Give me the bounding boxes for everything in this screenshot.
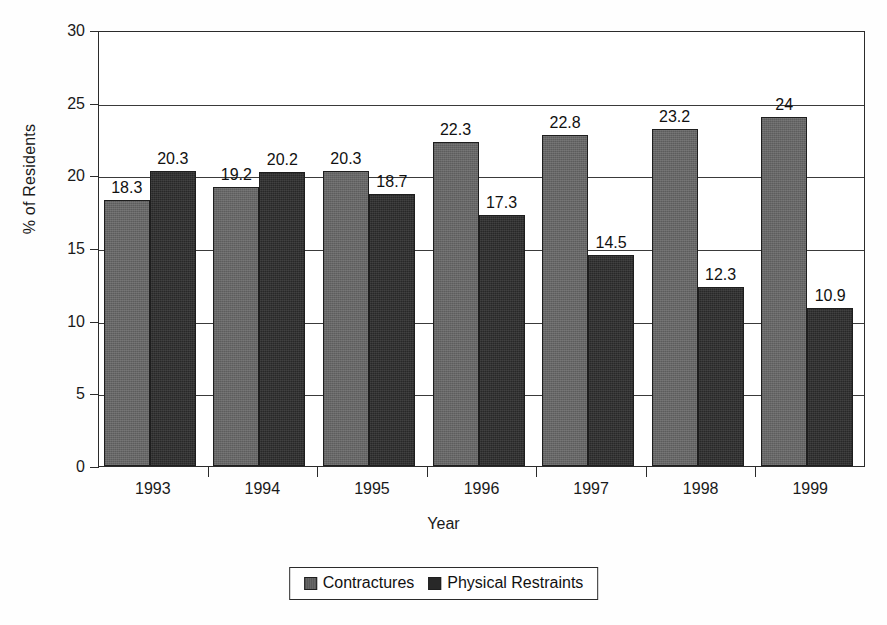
bar: [369, 194, 415, 466]
y-tick-label: 20: [40, 168, 85, 184]
y-tick-label: 5: [40, 386, 85, 402]
legend-entry-physical-restraints[interactable]: Physical Restraints: [428, 574, 583, 592]
bar-value-label: 14.5: [579, 235, 643, 251]
bar: [588, 255, 634, 466]
bar-value-label: 20.2: [250, 152, 314, 168]
bar: [652, 129, 698, 466]
plot-area: 18.320.319.220.220.318.722.317.322.814.5…: [98, 31, 865, 467]
x-tick-label: 1997: [536, 481, 646, 497]
x-tick-label: 1993: [98, 481, 208, 497]
bar: [259, 172, 305, 466]
y-axis-title: % of Residents: [21, 89, 39, 269]
bar: [213, 187, 259, 466]
x-tick-mark: [755, 467, 756, 477]
y-tick-mark: [90, 467, 99, 468]
y-tick-label: 0: [40, 459, 85, 475]
bar: [323, 171, 369, 466]
bar-value-label: 12.3: [689, 267, 753, 283]
gridline: [99, 105, 864, 106]
x-tick-mark: [536, 467, 537, 477]
x-axis-title: Year: [0, 515, 887, 533]
y-tick-label: 10: [40, 314, 85, 330]
bar-value-label: 10.9: [798, 288, 862, 304]
x-tick-label: 1999: [755, 481, 865, 497]
chart-figure: % of Residents 051015202530 18.320.319.2…: [0, 0, 887, 625]
bar: [433, 142, 479, 466]
x-tick-label: 1996: [427, 481, 537, 497]
legend-entry-contractures[interactable]: Contractures: [304, 574, 415, 592]
bar: [150, 171, 196, 466]
bar-value-label: 17.3: [470, 195, 534, 211]
bar-value-label: 22.3: [424, 122, 488, 138]
bar-value-label: 20.3: [141, 151, 205, 167]
x-tick-label: 1998: [646, 481, 756, 497]
bar-value-label: 20.3: [314, 151, 378, 167]
x-tick-mark: [427, 467, 428, 477]
bar: [807, 308, 853, 466]
bar: [479, 215, 525, 466]
x-tick-label: 1995: [317, 481, 427, 497]
x-tick-mark: [208, 467, 209, 477]
legend-label: Contractures: [323, 574, 415, 592]
x-tick-mark: [317, 467, 318, 477]
bar-value-label: 23.2: [643, 109, 707, 125]
y-tick-label: 30: [40, 23, 85, 39]
bar: [542, 135, 588, 466]
gray-swatch-icon: [304, 577, 317, 590]
x-tick-label: 1994: [208, 481, 318, 497]
chart-legend: Contractures Physical Restraints: [289, 567, 599, 600]
bar: [698, 287, 744, 466]
x-tick-mark: [646, 467, 647, 477]
black-swatch-icon: [428, 577, 441, 590]
bar-value-label: 22.8: [533, 115, 597, 131]
legend-label: Physical Restraints: [447, 574, 583, 592]
bar: [104, 200, 150, 466]
y-tick-label: 15: [40, 241, 85, 257]
bar-value-label: 24: [752, 97, 816, 113]
y-tick-label: 25: [40, 96, 85, 112]
bar-value-label: 18.7: [360, 174, 424, 190]
